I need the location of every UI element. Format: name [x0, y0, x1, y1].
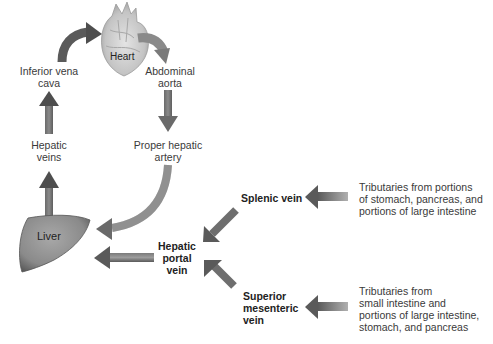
ivc-line-1: Inferior vena [14, 65, 84, 77]
splenic-tributaries-label: Tributaries from portions of stomach, pa… [359, 181, 483, 217]
abdominal-aorta-label: Abdominal aorta [140, 65, 200, 89]
aorta-line-2: aorta [140, 77, 200, 89]
smv-trib-line-4: stomach, and pancreas [359, 321, 479, 333]
superior-mesenteric-vein-label: Superior mesenteric vein [243, 290, 298, 326]
arrow-portal-to-liver [94, 246, 154, 269]
arrow-tributaries-to-splenic [305, 185, 348, 209]
hepatic-veins-line-1: Hepatic [24, 139, 74, 151]
hepatic-veins-line-2: veins [24, 151, 74, 163]
portal-line-3: vein [152, 264, 202, 276]
liver-illustration [20, 215, 90, 272]
hepatic-portal-vein-label: Hepatic portal vein [152, 240, 202, 276]
splenic-trib-line-1: Tributaries from portions [359, 181, 483, 193]
arrow-artery-to-liver [96, 165, 168, 240]
smv-line-3: vein [243, 314, 298, 326]
heart-label: Heart [110, 51, 134, 62]
arrow-tributaries-to-smv [305, 295, 348, 319]
arrow-liver-to-hepatic-veins [39, 171, 59, 222]
hepatic-veins-label: Hepatic veins [24, 139, 74, 163]
smv-line-2: mesenteric [243, 302, 298, 314]
artery-line-2: artery [128, 151, 208, 163]
smv-tributaries-label: Tributaries from small intestine and por… [359, 285, 479, 333]
portal-line-2: portal [152, 252, 202, 264]
smv-line-1: Superior [243, 290, 298, 302]
ivc-line-2: cava [14, 77, 84, 89]
portal-line-1: Hepatic [152, 240, 202, 252]
splenic-trib-line-2: of stomach, pancreas, and [359, 193, 483, 205]
proper-hepatic-artery-label: Proper hepatic artery [128, 139, 208, 163]
hepatic-circulation-diagram: Heart Inferior vena cava Abdominal aorta… [0, 0, 493, 344]
smv-trib-line-2: small intestine and [359, 297, 479, 309]
smv-trib-line-3: portions of large intestine, [359, 309, 479, 321]
smv-trib-line-1: Tributaries from [359, 285, 479, 297]
arrow-aorta-down [158, 90, 178, 132]
arrow-hepatic-veins-to-ivc [39, 91, 59, 134]
inferior-vena-cava-label: Inferior vena cava [14, 65, 84, 89]
splenic-vein-label: Splenic vein [241, 192, 302, 204]
aorta-line-1: Abdominal [140, 65, 200, 77]
splenic-trib-line-3: portions of large intestine [359, 205, 483, 217]
liver-label: Liver [37, 230, 61, 242]
arrow-smv-to-portal [204, 260, 234, 286]
artery-line-1: Proper hepatic [128, 139, 208, 151]
arrow-ivc-to-heart [62, 22, 102, 62]
arrow-splenic-to-portal [203, 210, 236, 242]
